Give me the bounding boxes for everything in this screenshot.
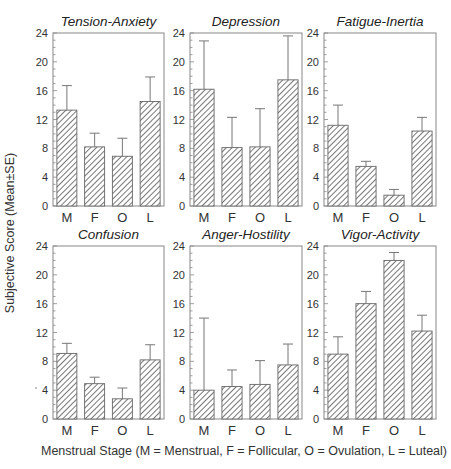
bar-L [140,101,160,206]
y-tick-label: 4 [179,384,185,396]
y-tick-label: 4 [179,171,185,183]
panel-confusion: Confusion04812162024MFOL [36,227,164,438]
y-tick-label: 12 [173,114,185,126]
y-tick-label: 8 [179,355,185,367]
y-tick-label: 0 [313,200,319,212]
y-tick-label: 20 [307,269,319,281]
x-tick-label: O [117,210,127,225]
bar-M [57,353,77,419]
x-tick-label: F [362,210,370,225]
y-tick-label: 24 [173,240,185,252]
y-tick-label: 8 [313,355,319,367]
stray-dot [35,387,37,389]
y-tick-label: 16 [307,298,319,310]
bar-M [194,390,214,419]
y-tick-label: 0 [42,413,48,425]
y-tick-label: 0 [313,413,319,425]
panel-title: Anger-Hostility [201,227,291,242]
bar-M [57,110,77,206]
panel-depression: Depression04812162024MFOL [173,14,302,225]
x-tick-label: O [255,423,265,438]
y-tick-label: 0 [42,200,48,212]
panel-title: Confusion [78,227,139,242]
x-tick-label: M [199,210,210,225]
x-tick-label: M [61,210,72,225]
bar-O [250,384,270,419]
bar-L [140,360,160,419]
y-tick-label: 4 [313,171,319,183]
bar-F [85,147,105,206]
x-tick-label: O [389,210,399,225]
x-tick-label: L [284,210,291,225]
bar-F [222,387,242,419]
bar-M [194,89,214,206]
bar-M [328,125,348,206]
x-tick-label: L [284,423,291,438]
x-tick-label: F [228,423,236,438]
y-tick-label: 20 [36,269,48,281]
y-tick-label: 4 [42,384,48,396]
panel-title: Vigor-Activity [341,227,421,242]
y-tick-label: 8 [179,142,185,154]
bar-F [356,166,376,206]
panel-title: Tension-Anxiety [61,14,158,29]
x-tick-label: F [91,423,99,438]
bar-O [112,156,132,206]
mood-profile-chart: Subjective Score (Mean±SE) Menstrual Sta… [0,0,451,469]
bar-O [384,260,404,419]
y-tick-label: 8 [42,142,48,154]
y-tick-label: 16 [173,298,185,310]
bar-L [278,80,298,206]
y-tick-label: 20 [173,56,185,68]
y-tick-label: 12 [307,327,319,339]
x-tick-label: O [117,423,127,438]
x-tick-label: M [333,423,344,438]
panel-fatigue-inertia: Fatigue-Inertia04812162024MFOL [307,14,436,225]
x-tick-label: F [228,210,236,225]
y-tick-label: 24 [36,240,48,252]
x-axis-title: Menstrual Stage (M = Menstrual, F = Foll… [41,444,447,458]
bar-M [328,354,348,419]
y-tick-label: 0 [179,200,185,212]
y-tick-label: 24 [307,240,319,252]
bar-L [412,131,432,206]
y-tick-label: 8 [313,142,319,154]
y-axis-title: Subjective Score (Mean±SE) [3,153,17,313]
x-tick-label: O [255,210,265,225]
y-tick-label: 4 [313,384,319,396]
y-tick-label: 20 [307,56,319,68]
panel-title: Fatigue-Inertia [336,14,424,29]
bar-O [112,399,132,419]
x-tick-label: L [147,423,154,438]
bar-L [278,365,298,419]
x-tick-label: L [147,210,154,225]
x-tick-label: M [61,423,72,438]
y-tick-label: 0 [179,413,185,425]
bar-F [356,304,376,419]
bar-L [412,331,432,419]
y-tick-label: 12 [36,114,48,126]
x-tick-label: M [199,423,210,438]
y-tick-label: 4 [42,171,48,183]
bar-O [250,147,270,206]
x-tick-label: O [389,423,399,438]
y-tick-label: 8 [42,355,48,367]
y-tick-label: 16 [36,298,48,310]
panel-tension-anxiety: Tension-Anxiety04812162024MFOL [36,14,164,225]
bar-F [85,384,105,419]
bar-O [384,195,404,206]
y-tick-label: 24 [36,27,48,39]
y-tick-label: 16 [307,85,319,97]
panel-anger-hostility: Anger-Hostility04812162024MFOL [173,227,302,438]
y-tick-label: 12 [173,327,185,339]
y-tick-label: 24 [307,27,319,39]
panel-title: Depression [212,14,280,29]
y-tick-label: 20 [173,269,185,281]
x-tick-label: M [333,210,344,225]
panel-vigor-activity: Vigor-Activity04812162024MFOL [307,227,436,438]
x-tick-label: F [91,210,99,225]
y-tick-label: 24 [173,27,185,39]
y-tick-label: 12 [307,114,319,126]
y-tick-label: 12 [36,327,48,339]
x-tick-label: L [418,210,425,225]
